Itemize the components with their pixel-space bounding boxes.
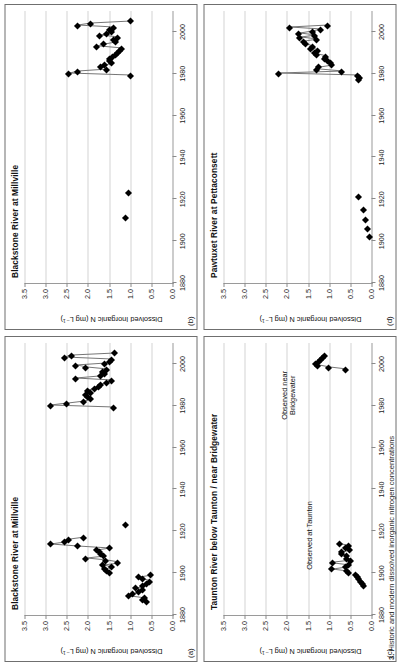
y-tick bbox=[130, 283, 131, 287]
panel-title-d: Pawtuxet River at Pettaconsett bbox=[208, 153, 218, 278]
x-tick-label: 1920 bbox=[376, 523, 385, 539]
x-tick-label: 1880 bbox=[177, 607, 186, 623]
y-tick bbox=[45, 615, 46, 619]
x-tick-label: 1980 bbox=[376, 66, 385, 82]
gridline-y bbox=[286, 11, 287, 283]
y-tick-label: 2.5 bbox=[62, 621, 71, 631]
gridline-y bbox=[223, 11, 224, 283]
plot-area-c: 3.53.02.52.01.51.00.50.01880190019201940… bbox=[223, 343, 372, 616]
x-tick-label: 1960 bbox=[177, 108, 186, 124]
x-tick bbox=[172, 73, 176, 74]
y-axis-title: Dissolved Inorganic N (mg L⁻¹) bbox=[259, 647, 361, 656]
y-tick bbox=[87, 615, 88, 619]
y-tick-label: 2.0 bbox=[282, 621, 291, 631]
gridline-y bbox=[66, 11, 67, 283]
connector-segment bbox=[90, 20, 130, 23]
gridline-y bbox=[329, 343, 330, 615]
x-tick-label: 2000 bbox=[177, 356, 186, 372]
gridline-y bbox=[265, 11, 266, 283]
data-point bbox=[63, 400, 70, 407]
x-tick-label: 1900 bbox=[376, 565, 385, 581]
data-point bbox=[324, 365, 331, 372]
x-tick bbox=[172, 447, 176, 448]
gridline-y bbox=[151, 11, 152, 283]
y-tick-label: 2.0 bbox=[83, 621, 92, 631]
data-point bbox=[360, 206, 367, 213]
x-tick-label: 1960 bbox=[177, 440, 186, 456]
y-tick-label: 2.5 bbox=[261, 621, 270, 631]
data-point bbox=[80, 534, 87, 541]
panel-a: (a)Blackstone River at MillvilleDissolve… bbox=[4, 336, 197, 662]
panel-title-b: Blackstone River at Millville bbox=[9, 165, 19, 278]
y-tick bbox=[350, 615, 351, 619]
x-tick bbox=[172, 198, 176, 199]
y-tick bbox=[265, 615, 266, 619]
y-tick-label: 1.0 bbox=[125, 621, 134, 631]
panel-title-c: Taunton River below Taunton / near Bridg… bbox=[208, 414, 218, 610]
x-tick-label: 1880 bbox=[376, 607, 385, 623]
x-tick-label: 1980 bbox=[177, 398, 186, 414]
annotation-line: Bridgewater bbox=[289, 371, 298, 420]
y-tick-label: 0.0 bbox=[168, 289, 177, 299]
figure-rotation-wrapper: (a)Blackstone River at MillvilleDissolve… bbox=[0, 0, 401, 666]
figure-caption-body: Historic and modern dissolved inorganic … bbox=[387, 436, 396, 652]
x-tick-label: 1980 bbox=[376, 398, 385, 414]
x-tick-label: 1940 bbox=[376, 481, 385, 497]
data-point bbox=[71, 362, 78, 369]
x-tick-label: 1880 bbox=[376, 275, 385, 291]
panel-b: (b)Blackstone River at MillvilleDissolve… bbox=[4, 4, 197, 330]
y-tick-label: 1.5 bbox=[303, 289, 312, 299]
gridline-y bbox=[87, 11, 88, 283]
y-tick bbox=[66, 283, 67, 287]
y-tick bbox=[223, 615, 224, 619]
x-tick-label: 1920 bbox=[376, 191, 385, 207]
data-point bbox=[363, 225, 370, 232]
x-tick-label: 1980 bbox=[177, 66, 186, 82]
x-tick bbox=[371, 73, 375, 74]
annotation-line: Observed at Taunton bbox=[305, 501, 314, 569]
figure-sheet: (a)Blackstone River at MillvilleDissolve… bbox=[0, 0, 401, 666]
data-point bbox=[126, 18, 133, 25]
x-tick bbox=[172, 405, 176, 406]
y-tick-label: 3.0 bbox=[240, 289, 249, 299]
x-tick-label: 1920 bbox=[177, 191, 186, 207]
annotation-line: Observed near bbox=[280, 371, 289, 420]
data-point bbox=[355, 194, 362, 201]
y-tick-label: 2.5 bbox=[62, 289, 71, 299]
x-tick-label: 2000 bbox=[376, 24, 385, 40]
x-tick bbox=[172, 156, 176, 157]
y-tick-label: 0.5 bbox=[345, 289, 354, 299]
x-tick bbox=[172, 530, 176, 531]
y-tick-label: 0.5 bbox=[146, 289, 155, 299]
gridline-y bbox=[45, 343, 46, 615]
y-tick bbox=[87, 283, 88, 287]
gridline-y bbox=[244, 343, 245, 615]
x-tick bbox=[371, 240, 375, 241]
panel-d: (d)Pawtuxet River at PettaconsettDissolv… bbox=[203, 4, 396, 330]
data-point bbox=[274, 70, 281, 77]
x-tick bbox=[371, 405, 375, 406]
data-point bbox=[317, 26, 324, 33]
data-point bbox=[341, 367, 348, 374]
data-point bbox=[362, 217, 369, 224]
y-tick bbox=[130, 615, 131, 619]
data-point bbox=[122, 521, 129, 528]
gridline-y bbox=[109, 11, 110, 283]
y-tick-label: 1.5 bbox=[303, 621, 312, 631]
y-tick bbox=[24, 283, 25, 287]
gridline-y bbox=[66, 343, 67, 615]
gridline-y bbox=[87, 343, 88, 615]
gridline-y bbox=[45, 11, 46, 283]
y-tick bbox=[151, 283, 152, 287]
y-tick bbox=[109, 615, 110, 619]
y-axis-title: Dissolved Inorganic N (mg L⁻¹) bbox=[259, 315, 361, 324]
x-tick-label: 1940 bbox=[376, 149, 385, 165]
y-tick-label: 0.5 bbox=[345, 621, 354, 631]
x-tick bbox=[172, 115, 176, 116]
y-tick-label: 0.0 bbox=[367, 621, 376, 631]
x-tick bbox=[371, 156, 375, 157]
x-tick bbox=[172, 363, 176, 364]
gridline-y bbox=[350, 11, 351, 283]
y-tick bbox=[172, 615, 173, 619]
y-tick-label: 3.5 bbox=[20, 621, 29, 631]
